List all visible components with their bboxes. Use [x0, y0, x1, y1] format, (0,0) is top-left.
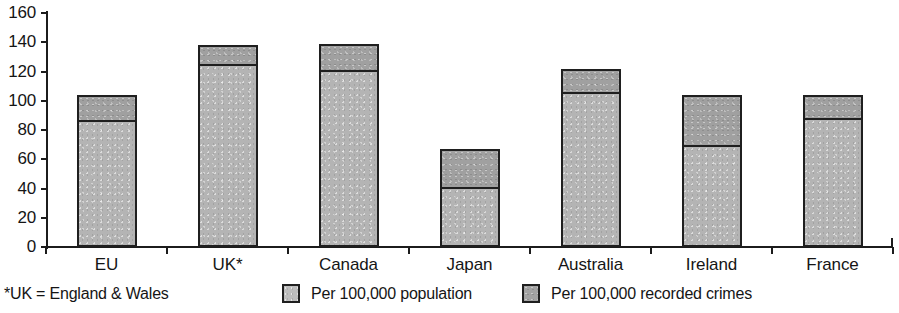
bar-eu	[77, 95, 137, 247]
x-axis-label-australia: Australia	[530, 255, 651, 274]
x-axis-label-eu: EU	[46, 255, 167, 274]
x-axis-tick	[892, 247, 894, 254]
x-axis-tick	[529, 247, 531, 254]
y-axis-tick-label: 20	[0, 209, 36, 226]
legend-item-recorded-crimes: Per 100,000 recorded crimes	[522, 284, 752, 303]
y-axis-tick-label: 40	[0, 180, 36, 197]
y-axis-tick	[41, 71, 47, 73]
bar-segment-recorded-crimes	[319, 44, 379, 72]
bar-australia	[561, 69, 621, 247]
bar-segment-recorded-crimes	[682, 95, 742, 147]
legend-swatch-population	[282, 284, 300, 303]
legend-swatch-recorded-crimes	[522, 284, 540, 303]
bar-segment-population	[803, 118, 863, 247]
bar-uk	[198, 45, 258, 247]
x-axis-tick	[771, 247, 773, 254]
bar-segment-population	[319, 70, 379, 247]
y-axis-tick-label: 160	[0, 4, 36, 21]
bar-japan	[440, 149, 500, 247]
bar-segment-population	[682, 145, 742, 247]
y-axis-tick-label: 80	[0, 121, 36, 138]
y-axis-tick-label: 0	[0, 238, 36, 255]
footnote: *UK = England & Wales	[4, 285, 169, 303]
bar-segment-recorded-crimes	[561, 69, 621, 94]
x-axis-label-ireland: Ireland	[651, 255, 772, 274]
bar-canada	[319, 44, 379, 247]
bar-segment-population	[561, 92, 621, 247]
bar-ireland	[682, 95, 742, 247]
stacked-bar-chart: 020406080100120140160 EUUK*CanadaJapanAu…	[0, 0, 899, 313]
bar-segment-recorded-crimes	[198, 45, 258, 66]
bar-segment-population	[198, 64, 258, 247]
x-axis-tick	[408, 247, 410, 254]
bar-segment-population	[440, 187, 500, 247]
bar-segment-recorded-crimes	[803, 95, 863, 120]
bar-segment-population	[77, 120, 137, 247]
y-axis-tick	[41, 217, 47, 219]
bar-france	[803, 95, 863, 247]
y-axis-tick	[41, 41, 47, 43]
x-axis-label-france: France	[772, 255, 893, 274]
legend-label-recorded-crimes: Per 100,000 recorded crimes	[551, 285, 752, 303]
legend-label-population: Per 100,000 population	[311, 285, 472, 303]
x-axis-tick	[650, 247, 652, 254]
legend-item-population: Per 100,000 population	[282, 284, 472, 303]
bar-segment-recorded-crimes	[77, 95, 137, 122]
x-axis-label-canada: Canada	[288, 255, 409, 274]
x-axis-label-uk: UK*	[167, 255, 288, 274]
y-axis-tick	[41, 129, 47, 131]
plot-area: 020406080100120140160 EUUK*CanadaJapanAu…	[0, 0, 899, 260]
y-axis-tick-label: 60	[0, 150, 36, 167]
y-axis-tick	[41, 158, 47, 160]
y-axis-tick-label: 120	[0, 63, 36, 80]
bar-segment-recorded-crimes	[440, 149, 500, 189]
x-axis-label-japan: Japan	[409, 255, 530, 274]
y-axis-tick	[41, 12, 47, 14]
y-axis-tick-label: 140	[0, 33, 36, 50]
x-axis-tick	[287, 247, 289, 254]
x-axis-tick	[166, 247, 168, 254]
y-axis-tick-label: 100	[0, 92, 36, 109]
y-axis-tick	[41, 188, 47, 190]
x-axis-tick	[45, 247, 47, 254]
y-axis-tick	[41, 100, 47, 102]
